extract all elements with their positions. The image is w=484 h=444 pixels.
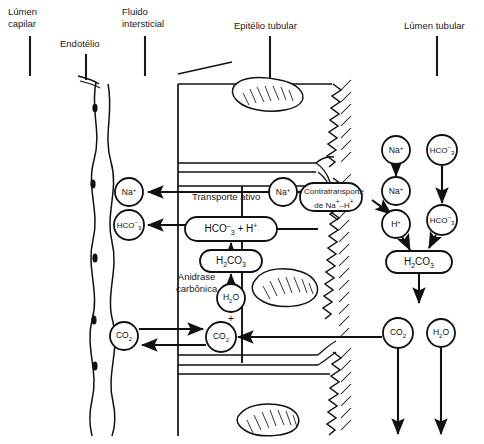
label-lumen-capilar: Lúmen capilar <box>8 6 37 29</box>
epithelial-cell-outlines <box>178 62 336 436</box>
label-fluido-intersticial: Fluido intersticial <box>122 6 164 29</box>
text-lum-h2o: H2O <box>433 327 449 339</box>
text-cell-hco3-h: HCO–3 + H+ <box>205 222 258 236</box>
text-cell-h2co3: H2CO3 <box>216 255 246 268</box>
text-lum-na-mid: Na+ <box>389 186 403 197</box>
text-lum-co2: CO2 <box>390 327 406 339</box>
brush-border-microvilli <box>323 80 351 435</box>
mitochondrion-upper <box>232 78 302 112</box>
diagram-canvas: Lúmen capilar Endotélio Fluido interstic… <box>0 0 484 444</box>
text-lum-h: H+ <box>391 219 401 230</box>
text-cap-hco3: HCO–3 <box>117 219 141 231</box>
molecule-shapes <box>110 135 457 352</box>
h-superscript: + <box>350 198 354 205</box>
text-lum-na-top: Na+ <box>389 145 403 156</box>
label-transporte-ativo: Transporte ativo <box>192 191 260 203</box>
text-cap-co2: CO2 <box>116 330 132 342</box>
text-cap-na: Na+ <box>122 187 136 198</box>
text-lum-h2co3: H2CO3 <box>404 256 434 269</box>
text-plus-sign: + <box>228 313 234 324</box>
text-cell-na: Na+ <box>276 187 290 198</box>
text-lum-hco3-top: HCO–3 <box>430 144 454 156</box>
label-anidrase-carbonica: Anidrase carbônica <box>176 271 217 294</box>
label-endotelio: Endotélio <box>60 38 100 50</box>
label-contratransporte: Contratransporte de Na+–H+ <box>304 187 364 211</box>
text-cell-co2: CO2 <box>213 331 229 343</box>
mitochondrion-middle <box>252 269 317 307</box>
mitochondrion-lower <box>237 404 299 436</box>
label-epitelio-tubular: Epitélio tubular <box>234 20 297 32</box>
text-cell-h2o: H2O <box>223 292 239 304</box>
label-lumen-tubular: Lúmen tubular <box>404 20 465 32</box>
text-lum-hco3-mid: HCO–3 <box>430 214 454 226</box>
